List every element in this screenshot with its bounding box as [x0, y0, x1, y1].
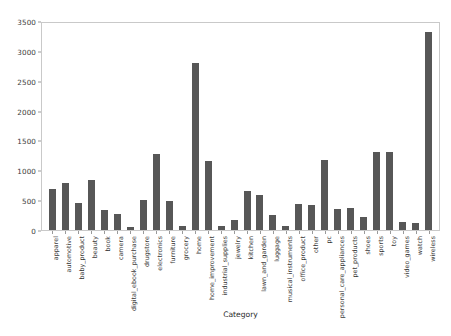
- x-axis-tick: grocery: [175, 231, 188, 307]
- bar: [127, 227, 134, 230]
- bar: [153, 154, 160, 230]
- x-axis-tick: wireless: [423, 231, 436, 307]
- x-axis-tick-mark: [234, 231, 235, 234]
- bar-slot: [228, 23, 241, 230]
- bar: [334, 209, 341, 230]
- x-axis-tick: pc: [319, 231, 332, 307]
- x-axis-tick-mark: [117, 231, 118, 234]
- bar: [205, 161, 212, 230]
- x-axis-tick-mark: [247, 231, 248, 234]
- x-axis-tick-mark: [52, 231, 53, 234]
- x-axis-tick: baby_product: [71, 231, 84, 307]
- x-axis-tick-mark: [325, 231, 326, 234]
- bar-slot: [163, 23, 176, 230]
- bar-slot: [111, 23, 124, 230]
- y-axis-tick-label: 0: [31, 227, 36, 236]
- bar: [269, 215, 276, 230]
- bar: [373, 152, 380, 230]
- x-axis-tick-mark: [65, 231, 66, 234]
- x-axis-tick: digital_ebook_purchase: [123, 231, 136, 307]
- bar: [62, 183, 69, 230]
- bar: [192, 63, 199, 230]
- bar-slot: [279, 23, 292, 230]
- x-axis-tick-mark: [143, 231, 144, 234]
- x-axis-tick-mark: [312, 231, 313, 234]
- y-axis-tick-label: 3500: [17, 18, 36, 27]
- x-axis-tick: jewelry: [227, 231, 240, 307]
- x-axis-tick: other: [306, 231, 319, 307]
- x-axis-tick-mark: [78, 231, 79, 234]
- bar-slot: [305, 23, 318, 230]
- x-axis-tick: apparel: [45, 231, 58, 307]
- bar-slot: [254, 23, 267, 230]
- bar-slot: [72, 23, 85, 230]
- bar: [49, 189, 56, 230]
- bar: [386, 152, 393, 230]
- y-axis-tick-label: 1000: [17, 167, 36, 176]
- x-axis-tick-label: wireless: [429, 236, 436, 262]
- bar: [88, 180, 95, 230]
- x-axis-tick: pet_products: [345, 231, 358, 307]
- y-axis-tick-label: 2500: [17, 77, 36, 86]
- bar-slot: [318, 23, 331, 230]
- bar: [244, 191, 251, 230]
- x-axis-tick: home: [188, 231, 201, 307]
- x-axis-tick: office_product: [293, 231, 306, 307]
- bar: [114, 214, 121, 230]
- bar: [75, 203, 82, 230]
- bar-slot: [189, 23, 202, 230]
- x-axis-tick-mark: [208, 231, 209, 234]
- bar: [218, 226, 225, 230]
- bar: [179, 226, 186, 230]
- x-axis-tick-mark: [182, 231, 183, 234]
- x-axis-tick: sports: [371, 231, 384, 307]
- x-axis-tick-mark: [351, 231, 352, 234]
- x-axis-tick-mark: [429, 231, 430, 234]
- bar: [321, 160, 328, 230]
- x-axis-tick: drugstore: [136, 231, 149, 307]
- x-axis-tick: musical_instruments: [280, 231, 293, 307]
- x-axis-tick: toy: [384, 231, 397, 307]
- x-axis-tick: home_improvement: [201, 231, 214, 307]
- x-axis-tick: camera: [110, 231, 123, 307]
- x-axis-tick-mark: [338, 231, 339, 234]
- bar-slot: [85, 23, 98, 230]
- bar-slot: [46, 23, 59, 230]
- bar-slot: [98, 23, 111, 230]
- x-axis-tick: luggage: [267, 231, 280, 307]
- bar: [360, 217, 367, 230]
- bar-slot: [176, 23, 189, 230]
- bar-slot: [137, 23, 150, 230]
- x-axis-tick: kitchen: [240, 231, 253, 307]
- bar: [308, 205, 315, 230]
- x-axis-tick-mark: [195, 231, 196, 234]
- y-axis-tick-label: 3000: [17, 47, 36, 56]
- x-axis-tick: industrial_supplies: [214, 231, 227, 307]
- x-axis-tick: video_games: [397, 231, 410, 307]
- bar-slot: [357, 23, 370, 230]
- x-axis-tick-mark: [364, 231, 365, 234]
- x-axis-tick: watch: [410, 231, 423, 307]
- bar-slot: [59, 23, 72, 230]
- x-axis-tick: personal_care_appliances: [332, 231, 345, 307]
- bar-slot: [124, 23, 137, 230]
- bar: [412, 223, 419, 230]
- bar-slot: [409, 23, 422, 230]
- y-axis-tick-label: 500: [22, 197, 36, 206]
- x-axis-title: Category: [41, 310, 440, 319]
- x-axis-tick-mark: [377, 231, 378, 234]
- x-axis-tick: electronics: [149, 231, 162, 307]
- x-axis-tick-mark: [104, 231, 105, 234]
- bar-slot: [202, 23, 215, 230]
- x-axis-tick-mark: [156, 231, 157, 234]
- bar-slot: [241, 23, 254, 230]
- bar-slot: [150, 23, 163, 230]
- x-axis-tick: automotive: [58, 231, 71, 307]
- x-axis-tick-mark: [299, 231, 300, 234]
- x-axis-tick-mark: [169, 231, 170, 234]
- bar: [295, 204, 302, 230]
- x-axis-tick: shoes: [358, 231, 371, 307]
- bar: [231, 220, 238, 230]
- bar: [347, 208, 354, 230]
- bar-slot: [292, 23, 305, 230]
